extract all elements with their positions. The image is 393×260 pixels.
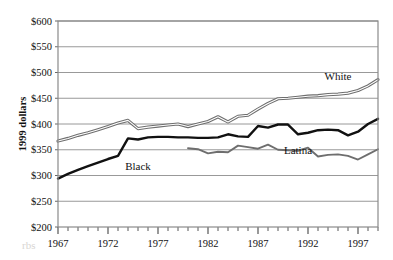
y-axis-tick-labels: $600$550$500$450$400$350$300$250$200 (31, 16, 58, 233)
series-annotation-latina: Latina (284, 144, 312, 156)
y-tick-label: $400 (31, 119, 52, 130)
y-tick-label: $350 (31, 144, 52, 155)
x-tick-label: 1987 (248, 238, 269, 249)
y-tick-label: $200 (31, 222, 52, 233)
series-annotation-white: White (325, 70, 352, 82)
y-tick-label: $300 (31, 170, 52, 181)
x-tick-label: 1967 (48, 238, 69, 249)
x-tick-label: 1992 (298, 238, 319, 249)
x-tick-label: 1977 (148, 238, 169, 249)
series-annotation-black: Black (125, 160, 151, 172)
x-tick-label: 1997 (348, 238, 369, 249)
y-tick-label: $450 (31, 93, 52, 104)
x-axis-ticks (58, 227, 378, 234)
x-tick-label: 1972 (98, 238, 119, 249)
y-tick-label: $500 (31, 67, 52, 78)
y-tick-label: $550 (31, 41, 52, 52)
x-tick-label: 1982 (198, 238, 219, 249)
y-tick-label: $250 (31, 196, 52, 207)
chart-figure: $600$550$500$450$400$350$300$250$200 196… (0, 0, 393, 260)
x-axis-tick-labels: 1967197219771982198719921997 (48, 238, 369, 249)
y-tick-label: $600 (31, 16, 52, 27)
y-axis-title: 1999 dollars (17, 97, 28, 152)
line-chart: $600$550$500$450$400$350$300$250$200 196… (0, 0, 393, 260)
watermark: rbs (22, 239, 35, 251)
